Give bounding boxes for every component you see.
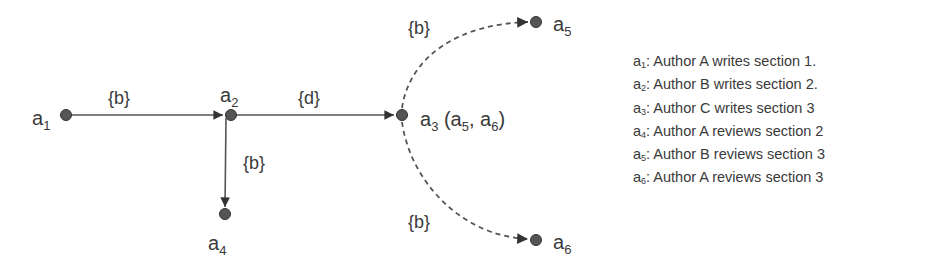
legend-item: a4: Author A reviews section 2 bbox=[633, 122, 825, 145]
legend-item: a6: Author A reviews section 3 bbox=[633, 168, 825, 191]
edge-label-a3-a6: {b} bbox=[408, 212, 430, 232]
edge-a2-a4 bbox=[225, 118, 226, 207]
node-a5 bbox=[531, 17, 542, 28]
node-label-a3: a3 (a5, a6) bbox=[420, 108, 505, 134]
node-a6 bbox=[531, 235, 542, 246]
legend-item: a1: Author A writes section 1. bbox=[633, 52, 825, 75]
legend: a1: Author A writes section 1. a2: Autho… bbox=[633, 52, 825, 192]
legend-item: a5: Author B reviews section 3 bbox=[633, 145, 825, 168]
edge-label-a2-a4: {b} bbox=[243, 153, 265, 173]
node-a3 bbox=[397, 110, 408, 121]
node-a2 bbox=[226, 110, 237, 121]
node-a1 bbox=[61, 110, 72, 121]
node-label-a5: a5 bbox=[553, 13, 571, 39]
edge-label-a3-a5: {b} bbox=[408, 18, 430, 38]
edge-label-a2-a3: {d} bbox=[298, 88, 320, 108]
legend-item: a2: Author B writes section 2. bbox=[633, 75, 825, 98]
node-label-a6: a6 bbox=[553, 231, 571, 257]
node-label-a4: a4 bbox=[208, 232, 226, 258]
legend-item: a3: Author C writes section 3 bbox=[633, 99, 825, 122]
node-label-a1: a1 bbox=[32, 107, 50, 133]
node-a4 bbox=[220, 209, 231, 220]
edge-label-a1-a2: {b} bbox=[108, 88, 130, 108]
node-label-a2: a2 bbox=[220, 84, 238, 110]
